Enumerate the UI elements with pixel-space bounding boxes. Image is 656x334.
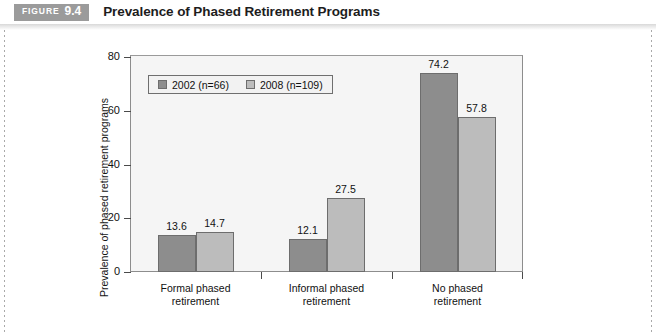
y-axis-tick — [124, 111, 131, 112]
figure-header: FIGURE 9.4 Prevalence of Phased Retireme… — [0, 0, 656, 24]
x-axis-category-label: No phasedretirement — [388, 282, 528, 307]
x-axis-category-line: retirement — [126, 295, 266, 308]
x-axis-category-line: retirement — [257, 295, 397, 308]
x-axis-category-label: Informal phasedretirement — [257, 282, 397, 307]
y-axis-tick-label: 0 — [96, 265, 120, 277]
bar-value-label: 13.6 — [157, 220, 197, 232]
x-axis-tick — [522, 272, 523, 279]
bar — [196, 232, 234, 272]
legend-label: 2002 (n=66) — [172, 79, 229, 91]
y-axis-tick-label: 40 — [96, 158, 120, 170]
chart-legend: 2002 (n=66)2008 (n=109) — [148, 75, 333, 94]
bar-value-label: 74.2 — [419, 58, 459, 70]
bar-value-label: 12.1 — [288, 224, 328, 236]
x-axis-category-line: Formal phased — [126, 282, 266, 295]
y-axis-tick-label: 20 — [96, 211, 120, 223]
x-axis-tick — [392, 272, 393, 279]
bar — [458, 117, 496, 272]
bar — [327, 198, 365, 272]
x-axis-category-line: Informal phased — [257, 282, 397, 295]
bar — [158, 235, 196, 272]
y-axis-tick — [124, 57, 131, 58]
bar-value-label: 14.7 — [195, 217, 235, 229]
figure-number-badge: FIGURE 9.4 — [14, 4, 89, 21]
y-axis-tick — [124, 165, 131, 166]
legend-item: 2008 (n=109) — [246, 79, 323, 91]
legend-label: 2008 (n=109) — [260, 79, 323, 91]
bar-value-label: 27.5 — [326, 183, 366, 195]
legend-swatch — [246, 80, 255, 89]
bar — [289, 239, 327, 272]
x-axis-category-label: Formal phasedretirement — [126, 282, 266, 307]
y-axis-tick — [124, 218, 131, 219]
bar — [420, 73, 458, 272]
x-axis-tick — [261, 272, 262, 279]
y-axis-tick-label: 80 — [96, 50, 120, 62]
legend-item: 2002 (n=66) — [158, 79, 229, 91]
figure-title: Prevalence of Phased Retirement Programs — [103, 4, 380, 19]
figure-badge-word: FIGURE — [22, 6, 60, 16]
y-axis-tick — [124, 272, 131, 273]
x-axis-category-line: retirement — [388, 295, 528, 308]
figure-page: FIGURE 9.4 Prevalence of Phased Retireme… — [0, 0, 656, 334]
legend-swatch — [158, 80, 167, 89]
chart-container: Prevalence of phased retirement programs… — [0, 30, 656, 334]
figure-badge-number: 9.4 — [65, 4, 82, 18]
x-axis-category-line: No phased — [388, 282, 528, 295]
bar-value-label: 57.8 — [457, 102, 497, 114]
y-axis-tick-label: 60 — [96, 104, 120, 116]
